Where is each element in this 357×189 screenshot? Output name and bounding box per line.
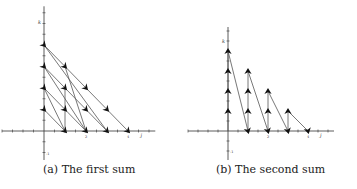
tick-label: 2 [267, 135, 269, 139]
arrowhead-icon [284, 127, 291, 134]
panel-b-second-sum: 24-1jk (b) The second sum [0, 0, 357, 189]
path-segment [248, 71, 268, 131]
caption-second-sum: (b) The second sum [216, 163, 325, 176]
path-segment [288, 111, 308, 131]
tick-label: 4 [307, 135, 310, 139]
path-segment [268, 91, 288, 131]
path-segment [228, 51, 248, 131]
lattice-plot-second-sum: 24-1jk [0, 0, 357, 160]
x-axis-label: j [319, 132, 322, 139]
y-axis-label: k [222, 38, 225, 44]
tick-label: -1 [230, 150, 233, 154]
